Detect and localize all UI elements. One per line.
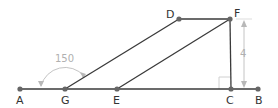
point-B [255,86,260,91]
label-B: B [255,94,263,107]
segment-GD [65,19,179,89]
segment-FC [230,19,231,89]
label-E: E [113,94,120,107]
angle-arrowhead-left [38,81,44,87]
angle-annotation: 150 [38,53,86,87]
point-F [227,16,232,21]
point-D [176,16,181,21]
points [17,16,260,91]
point-E [114,86,119,91]
length-annotation: 4 [236,19,252,88]
point-C [228,86,233,91]
label-C: C [226,94,234,107]
dimension-arrow-up [241,20,247,27]
label-F: F [234,7,240,20]
segment-EF [117,19,230,89]
point-A [17,86,22,91]
label-G: G [61,94,70,107]
angle-arc [41,67,84,86]
label-A: A [16,94,24,107]
point-G [62,86,67,91]
label-D: D [166,8,174,21]
dimension-arrow-down [241,81,247,88]
angle-value: 150 [55,53,74,64]
geometry-diagram: 150 4 A G E C B D F [0,0,278,108]
length-value: 4 [240,48,246,59]
